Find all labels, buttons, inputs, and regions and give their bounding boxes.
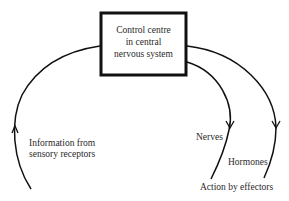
- nerve-pathway-curve: [187, 62, 230, 179]
- box-line-3: nervous system: [114, 49, 173, 59]
- box-line-1: Control centre: [116, 25, 171, 35]
- input-label-line-1: Information from: [29, 138, 96, 148]
- box-line-2: in central: [126, 37, 162, 47]
- nerves-label: Nerves: [196, 132, 223, 142]
- input-label-line-2: sensory receptors: [29, 149, 96, 159]
- input-pathway-curve: [15, 46, 100, 189]
- control-system-diagram: Control centre in central nervous system…: [0, 0, 289, 201]
- effectors-label: Action by effectors: [200, 182, 273, 192]
- hormones-label: Hormones: [228, 157, 268, 167]
